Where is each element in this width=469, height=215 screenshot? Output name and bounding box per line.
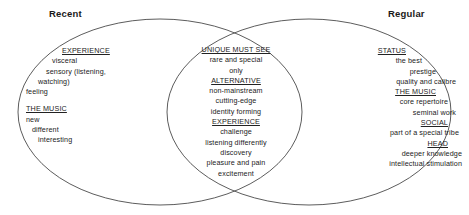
left-item: sensory (listening,: [26, 67, 144, 77]
left-item: feeling: [26, 87, 144, 97]
venn-diagram-page: Recent Regular EXPERIENCE visceral senso…: [0, 0, 469, 215]
right-group-heading-head: HEAD: [338, 139, 462, 149]
center-item: listening differently: [172, 138, 300, 148]
right-set-title-regular: Regular: [388, 8, 425, 19]
center-item: pleasure and pain: [172, 158, 300, 168]
right-group-heading-status: STATUS: [338, 46, 462, 56]
right-only-region-content: STATUS the best prestige quality and cal…: [338, 46, 462, 170]
center-group-heading-experience: EXPERIENCE: [172, 117, 300, 127]
center-item: discovery: [172, 148, 300, 158]
left-item: different: [26, 125, 144, 135]
right-item: part of a special tribe: [338, 128, 462, 138]
center-group-heading-unique-must-see: UNIQUE MUST SEE: [172, 45, 300, 55]
left-group-heading-the-music: THE MUSIC: [26, 104, 144, 114]
right-item: prestige: [338, 67, 462, 77]
right-item: quality and calibre: [338, 77, 462, 87]
center-item: challenge: [172, 127, 300, 137]
center-group-heading-alternative: ALTERNATIVE: [172, 76, 300, 86]
center-item: rare and special: [172, 55, 300, 65]
right-item: the best: [338, 56, 462, 66]
left-item: visceral: [26, 56, 144, 66]
left-item: interesting: [26, 135, 144, 145]
block-spacer: [26, 97, 144, 104]
left-item: new: [26, 115, 144, 125]
left-set-title-recent: Recent: [49, 8, 82, 19]
center-item: only: [172, 66, 300, 76]
left-group-heading-experience: EXPERIENCE: [26, 46, 144, 56]
center-item: non-mainstream: [172, 86, 300, 96]
right-item: seminal work: [338, 108, 462, 118]
center-item: identity forming: [172, 107, 300, 117]
center-item: cutting-edge: [172, 96, 300, 106]
center-item: excitement: [172, 169, 300, 179]
right-group-heading-the-music: THE MUSIC: [338, 87, 462, 97]
right-item: deeper knowledge: [338, 149, 462, 159]
right-item: core repertoire: [338, 97, 462, 107]
left-item: watching): [26, 77, 144, 87]
left-only-region-content: EXPERIENCE visceral sensory (listening, …: [26, 46, 144, 146]
right-group-heading-social: SOCIAL: [338, 118, 462, 128]
intersection-region-content: UNIQUE MUST SEE rare and special only AL…: [172, 45, 300, 179]
right-item: intellectual stimulation: [338, 159, 462, 169]
